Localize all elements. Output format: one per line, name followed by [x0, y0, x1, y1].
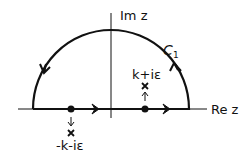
imaginary-axis-label: Im z: [120, 8, 148, 23]
contour-label: C: [163, 42, 173, 58]
real-axis-label: Re z: [211, 102, 239, 117]
pole-dot-right: [142, 106, 149, 113]
pole-cross-left-icon: [68, 130, 74, 136]
pole-cross-right-icon: [142, 83, 148, 89]
pole-dot-left: [68, 106, 75, 113]
pole-label-left: -k-iε: [56, 138, 84, 153]
contour-diagram: Im z Re z C 1 k+iε -k-iε: [0, 0, 248, 161]
contour-label-subscript: 1: [173, 50, 179, 60]
arc-arrow-right-icon: [170, 63, 181, 71]
pole-label-right: k+iε: [132, 67, 161, 82]
